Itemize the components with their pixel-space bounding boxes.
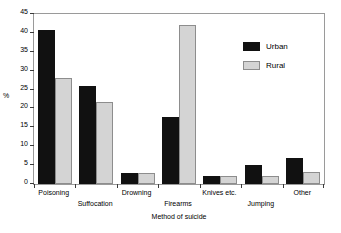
bar-rural-poisoning (55, 78, 72, 184)
bar-urban-suffocation (79, 86, 96, 184)
legend-label-urban: Urban (266, 42, 288, 51)
x-axis-tick-mark (200, 184, 201, 188)
bar-urban-firearms (162, 117, 179, 184)
bar-urban-knives-etc (203, 176, 220, 184)
y-axis-tick: 25 (12, 89, 34, 90)
x-axis-category-label: Jumping (248, 200, 274, 208)
chart-legend: UrbanRural (243, 40, 288, 78)
legend-swatch-rural (243, 61, 260, 70)
legend-label-rural: Rural (266, 61, 285, 70)
x-axis-tick-mark (241, 184, 242, 188)
bar-rural-suffocation (96, 102, 113, 184)
x-axis-category-label: Suffocation (78, 200, 113, 208)
y-axis-tick: 20 (12, 107, 34, 108)
bar-rural-firearms (179, 25, 196, 184)
x-axis-category-label: Firearms (164, 200, 192, 208)
x-axis-title: Method of suicide (152, 213, 207, 221)
y-axis-tick-label: 15 (20, 121, 28, 129)
y-axis-tick-label: 35 (20, 46, 28, 54)
bar-chart-figure: % 051015202530354045 UrbanRural Method o… (0, 0, 341, 233)
bar-urban-poisoning (38, 30, 55, 184)
y-axis-tick: 10 (12, 145, 34, 146)
x-axis-category-label: Drowning (122, 189, 152, 197)
legend-item-rural: Rural (243, 59, 288, 72)
bar-rural-other (303, 172, 320, 184)
x-axis-tick-mark (158, 184, 159, 188)
bar-urban-drowning (121, 173, 138, 184)
bar-rural-jumping (262, 176, 279, 184)
y-axis-tick-label: 0 (24, 178, 28, 186)
bar-urban-other (286, 158, 303, 184)
y-axis-tick-mark (30, 126, 34, 127)
bar-urban-jumping (245, 165, 262, 184)
y-axis-tick-mark (30, 70, 34, 71)
legend-swatch-urban (243, 42, 260, 51)
y-axis-tick: 5 (12, 164, 34, 165)
x-axis-category-label: Knives etc. (202, 189, 236, 197)
y-axis-tick-mark (30, 51, 34, 52)
x-axis-tick-mark (323, 184, 324, 188)
y-axis-tick: 0 (12, 183, 34, 184)
y-axis-tick: 30 (12, 70, 34, 71)
y-axis-tick-label: 20 (20, 102, 28, 110)
y-axis-tick-mark (30, 32, 34, 33)
y-axis-title: % (3, 92, 9, 100)
y-axis-tick: 40 (12, 32, 34, 33)
y-axis-tick-mark (30, 89, 34, 90)
y-axis-tick-mark (30, 164, 34, 165)
y-axis-tick-mark (30, 145, 34, 146)
x-axis-tick-mark (283, 184, 284, 188)
y-axis-tick-mark (30, 107, 34, 108)
plot-frame: 051015202530354045 (33, 13, 325, 185)
x-axis-tick-mark (75, 184, 76, 188)
x-axis-tick-mark (117, 184, 118, 188)
y-axis-tick: 15 (12, 126, 34, 127)
x-axis-category-label: Poisoning (38, 189, 69, 197)
y-axis-tick-label: 25 (20, 84, 28, 92)
y-axis-tick-label: 30 (20, 65, 28, 73)
y-axis-tick: 35 (12, 51, 34, 52)
y-axis-tick-label: 10 (20, 140, 28, 148)
x-axis-category-label: Other (294, 189, 312, 197)
y-axis-tick-label: 45 (20, 8, 28, 16)
bar-rural-drowning (138, 173, 155, 184)
x-axis-tick-mark (34, 184, 35, 188)
legend-item-urban: Urban (243, 40, 288, 53)
y-axis-tick-mark (30, 13, 34, 14)
bar-rural-knives-etc (220, 176, 237, 184)
y-axis-tick-label: 40 (20, 27, 28, 35)
y-axis-tick-label: 5 (24, 159, 28, 167)
y-axis-tick: 45 (12, 13, 34, 14)
